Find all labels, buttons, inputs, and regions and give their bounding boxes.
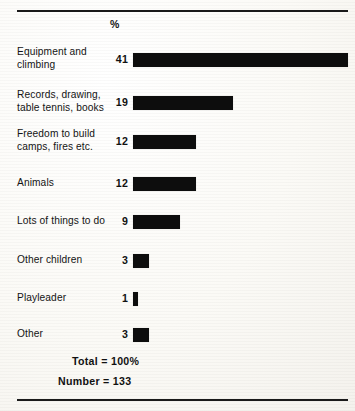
bar-rows-container: Equipment and climbing41Records, drawing… — [0, 0, 355, 411]
bar-row-bar — [133, 254, 149, 268]
bar-row-bar — [133, 328, 149, 342]
bar-row-value: 41 — [96, 53, 128, 65]
bar-row-value: 3 — [96, 328, 128, 340]
chart-figure: % Equipment and climbing41Records, drawi… — [0, 0, 355, 411]
total-percent-label: Total = 100% — [72, 355, 139, 367]
bar-row-value: 1 — [96, 292, 128, 304]
bar-row-bar — [133, 96, 233, 110]
bar-row-value: 12 — [96, 177, 128, 189]
bar-row-bar — [133, 135, 196, 149]
total-number-label: Number = 133 — [58, 375, 131, 387]
bar-row-bar — [133, 215, 180, 229]
bar-row-value: 3 — [96, 254, 128, 266]
bar-row-value: 12 — [96, 135, 128, 147]
bar-row-bar — [133, 53, 348, 67]
bar-row-value: 9 — [96, 215, 128, 227]
bottom-divider-rule — [17, 399, 348, 401]
bar-row-value: 19 — [96, 96, 128, 108]
bar-row-bar — [133, 292, 138, 306]
bar-row-bar — [133, 177, 196, 191]
